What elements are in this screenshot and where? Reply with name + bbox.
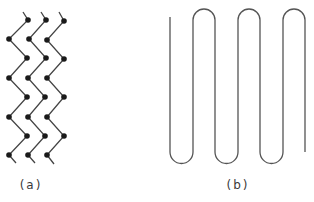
zigzag-chain-2: [28, 12, 46, 163]
panel-a-zigzag-chains: [9, 12, 64, 164]
zigzag-chain-3: [47, 12, 64, 164]
panel-b-serpentine-line: [170, 9, 305, 164]
panel-b-label: (b): [227, 178, 250, 192]
panel-a-label: (a): [20, 178, 43, 192]
figure-canvas: [0, 0, 314, 202]
zigzag-chain-1: [9, 12, 28, 163]
